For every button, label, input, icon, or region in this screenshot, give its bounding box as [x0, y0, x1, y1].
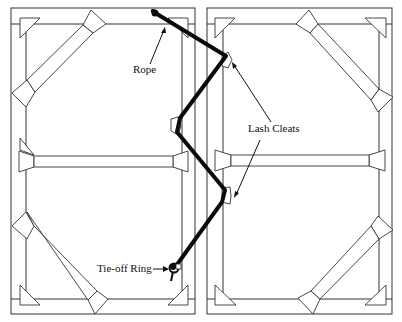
corner-gusset-icon — [20, 285, 40, 305]
lash-cleats-leader-line — [234, 65, 271, 122]
rope-line — [157, 14, 226, 266]
horizontal-brace — [215, 150, 385, 171]
corner-gusset-icon — [20, 18, 40, 38]
rope-label: Rope — [133, 64, 156, 75]
rope-knot-icon — [151, 9, 155, 13]
corner-gusset-icon — [215, 18, 235, 38]
rope-leader-line — [150, 30, 164, 64]
lash-cleats-label: Lash Cleats — [248, 123, 300, 134]
corner-gusset-icon — [215, 285, 236, 305]
container-lashing-diagram: Rope Lash Cleats Tie-off Ring — [0, 0, 402, 322]
corner-gusset-icon — [365, 285, 386, 305]
corner-gusset-icon — [365, 18, 386, 38]
tie-off-ring-icon — [170, 264, 182, 282]
right-panel — [207, 8, 393, 314]
corner-gusset-icon — [168, 285, 188, 305]
lash-cleats-leader-line — [236, 140, 260, 195]
arrow-head-icon — [234, 191, 239, 198]
arrow-head-icon — [161, 27, 166, 33]
tie-off-ring-label: Tie-off Ring — [97, 263, 152, 274]
horizontal-brace — [19, 151, 188, 172]
arrow-head-icon — [163, 266, 169, 272]
